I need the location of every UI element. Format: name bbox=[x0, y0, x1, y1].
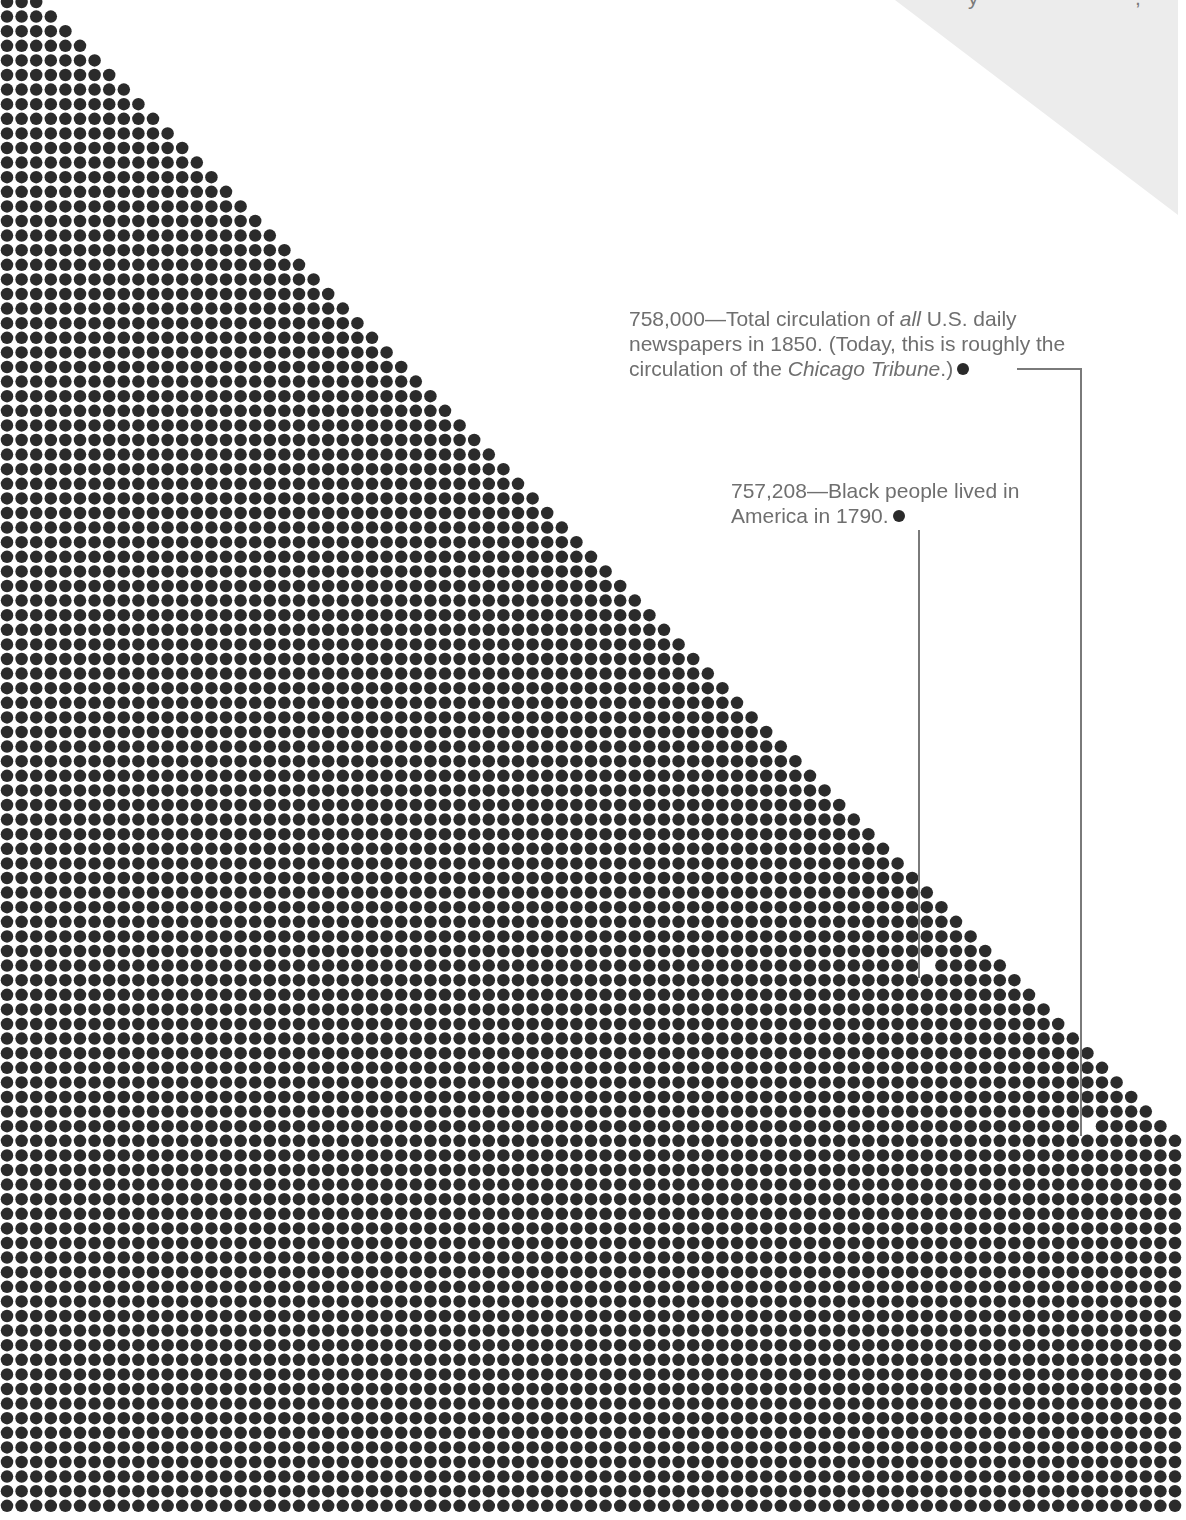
annotation-bullet-icon bbox=[957, 363, 969, 375]
leader-line-horizontal-newspapers bbox=[1017, 368, 1082, 370]
annotation-text: 757,208—Black people lived inAmerica in … bbox=[731, 479, 1019, 527]
annotation-bullet-icon bbox=[893, 510, 905, 522]
annotation-newspapers-1850: 758,000—Total circulation of all U.S. da… bbox=[629, 306, 1065, 381]
annotation-text: 758,000—Total circulation of all U.S. da… bbox=[629, 307, 1065, 380]
leader-line-vertical-population bbox=[918, 530, 920, 978]
dot-matrix-chart bbox=[0, 0, 1186, 1520]
annotation-black-population-1790: 757,208—Black people lived inAmerica in … bbox=[731, 478, 1019, 528]
leader-line-vertical-newspapers bbox=[1080, 368, 1082, 1136]
